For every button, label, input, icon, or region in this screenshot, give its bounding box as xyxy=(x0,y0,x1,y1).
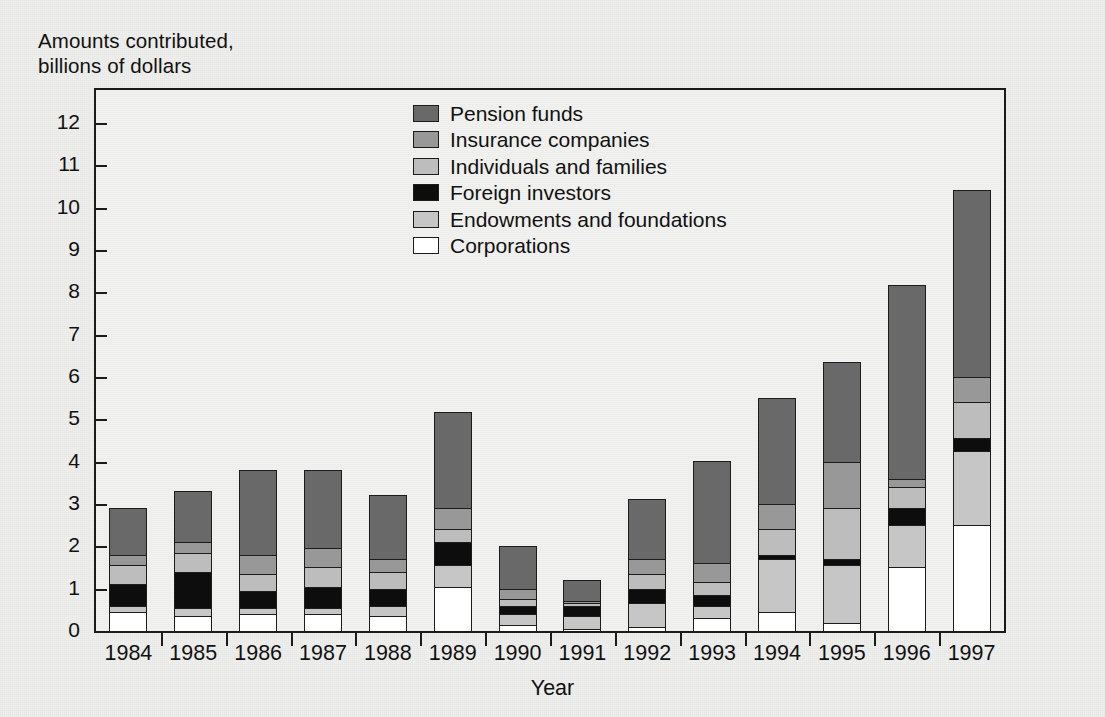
bar-segment-individuals-and-families xyxy=(758,529,796,556)
bar-segment-corporations xyxy=(434,586,472,632)
bar-segment-pension-funds xyxy=(693,461,731,564)
y-axis-tick-label: 11 xyxy=(40,152,80,176)
bar-segment-pension-funds xyxy=(174,491,212,543)
y-axis-tick xyxy=(94,292,107,294)
bar-segment-insurance-companies xyxy=(758,503,796,530)
y-axis-tick-label: 7 xyxy=(40,322,80,346)
bar-segment-insurance-companies xyxy=(174,542,212,554)
bar-1985 xyxy=(174,492,212,632)
y-axis-tick-label: 1 xyxy=(40,576,80,600)
bar-segment-pension-funds xyxy=(434,412,472,509)
bar-segment-corporations xyxy=(239,613,277,632)
legend-swatch-icon xyxy=(413,184,439,201)
bar-segment-pension-funds xyxy=(499,546,537,590)
bar-segment-endowments-and-foundations xyxy=(888,525,926,569)
bar-segment-pension-funds xyxy=(888,285,926,479)
y-axis-tick-label: 3 xyxy=(40,491,80,515)
bar-segment-foreign-investors xyxy=(888,508,926,527)
y-axis-tick-label: 9 xyxy=(40,237,80,261)
bar-1991 xyxy=(563,581,601,632)
y-axis-tick xyxy=(94,589,107,591)
bar-segment-insurance-companies xyxy=(953,376,991,403)
bar-segment-foreign-investors xyxy=(434,542,472,567)
bar-segment-pension-funds xyxy=(369,495,407,560)
bar-segment-pension-funds xyxy=(239,470,277,556)
x-axis-tick-label: 1997 xyxy=(940,641,1004,666)
bar-segment-pension-funds xyxy=(109,508,147,556)
bar-segment-individuals-and-families xyxy=(693,582,731,596)
bar-segment-corporations xyxy=(758,611,796,632)
y-axis-tick-label: 2 xyxy=(40,533,80,557)
bar-segment-endowments-and-foundations xyxy=(953,450,991,526)
bar-segment-pension-funds xyxy=(953,190,991,378)
bar-segment-insurance-companies xyxy=(304,548,342,569)
x-axis-tick-label: 1991 xyxy=(550,641,614,666)
bar-segment-endowments-and-foundations xyxy=(563,616,601,630)
bar-segment-corporations xyxy=(174,616,212,632)
bar-segment-individuals-and-families xyxy=(304,567,342,588)
legend-item: Foreign investors xyxy=(413,180,727,207)
y-axis-tick xyxy=(94,631,107,633)
chart-legend: Pension fundsInsurance companiesIndividu… xyxy=(413,100,727,259)
legend-item-label: Endowments and foundations xyxy=(450,209,727,230)
y-axis-tick xyxy=(94,165,107,167)
bar-1989 xyxy=(434,414,472,632)
y-axis-tick xyxy=(94,546,107,548)
x-axis-tick-label: 1987 xyxy=(291,641,355,666)
bar-segment-individuals-and-families xyxy=(953,402,991,440)
bar-segment-individuals-and-families xyxy=(369,571,407,590)
bar-segment-corporations xyxy=(693,618,731,632)
bar-segment-corporations xyxy=(109,611,147,632)
bar-1988 xyxy=(369,497,407,632)
legend-swatch-icon xyxy=(413,158,439,175)
y-axis-tick-label: 12 xyxy=(40,110,80,134)
bar-segment-insurance-companies xyxy=(369,558,407,572)
legend-swatch-icon xyxy=(413,105,439,122)
legend-item-label: Insurance companies xyxy=(450,129,650,150)
bar-segment-endowments-and-foundations xyxy=(499,613,537,625)
bar-segment-foreign-investors xyxy=(953,438,991,452)
bar-segment-insurance-companies xyxy=(823,461,861,509)
legend-item-label: Individuals and families xyxy=(450,156,667,177)
y-axis-tick-label: 0 xyxy=(40,618,80,642)
bar-segment-pension-funds xyxy=(304,470,342,550)
legend-item-label: Corporations xyxy=(450,235,570,256)
bar-segment-pension-funds xyxy=(563,580,601,603)
bar-segment-foreign-investors xyxy=(109,584,147,607)
x-axis-tick-label: 1995 xyxy=(810,641,874,666)
legend-item: Endowments and foundations xyxy=(413,206,727,233)
bar-1984 xyxy=(109,509,147,632)
bar-segment-endowments-and-foundations xyxy=(823,565,861,624)
legend-item-label: Foreign investors xyxy=(450,182,611,203)
bar-segment-corporations xyxy=(953,525,991,632)
chart-page: Amounts contributed, billions of dollars… xyxy=(0,0,1105,717)
bar-segment-individuals-and-families xyxy=(174,552,212,573)
y-axis-tick xyxy=(94,335,107,337)
bar-segment-foreign-investors xyxy=(628,588,666,604)
bar-segment-corporations xyxy=(888,567,926,632)
bar-segment-foreign-investors xyxy=(239,590,277,609)
bar-segment-foreign-investors xyxy=(174,571,212,609)
bar-segment-insurance-companies xyxy=(499,588,537,600)
bar-segment-foreign-investors xyxy=(693,594,731,606)
bar-1992 xyxy=(628,501,666,632)
bar-1997 xyxy=(953,192,991,632)
x-axis-tick-label: 1989 xyxy=(421,641,485,666)
y-axis-tick xyxy=(94,419,107,421)
bar-segment-endowments-and-foundations xyxy=(434,565,472,588)
bar-segment-individuals-and-families xyxy=(888,486,926,509)
x-axis-tick-label: 1996 xyxy=(875,641,939,666)
bar-1986 xyxy=(239,471,277,632)
y-axis-tick-label: 5 xyxy=(40,406,80,430)
bar-1990 xyxy=(499,547,537,632)
legend-item-label: Pension funds xyxy=(450,103,583,124)
y-axis-tick xyxy=(94,123,107,125)
x-axis-tick-label: 1988 xyxy=(356,641,420,666)
bar-segment-individuals-and-families xyxy=(823,508,861,560)
y-axis-tick-label: 6 xyxy=(40,364,80,388)
bar-segment-endowments-and-foundations xyxy=(628,603,666,628)
legend-item: Insurance companies xyxy=(413,127,727,154)
legend-item: Corporations xyxy=(413,233,727,260)
legend-swatch-icon xyxy=(413,211,439,228)
bar-segment-foreign-investors xyxy=(563,605,601,617)
